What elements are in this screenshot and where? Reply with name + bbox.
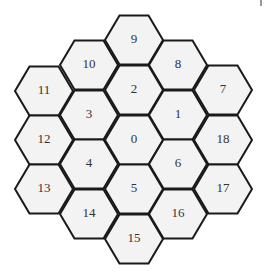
hex-cell-label: 3 [86,106,93,121]
hex-cell-label: 1 [175,106,182,121]
hex-cell-label: 13 [38,180,51,195]
hex-cell-label: 11 [38,82,51,97]
hex-cell-label: 14 [83,205,97,220]
hex-cell-label: 4 [86,155,93,170]
hex-cell-label: 2 [131,81,138,96]
hex-cell-label: 18 [217,131,230,146]
hex-cell-label: 5 [131,180,138,195]
hex-cell-label: 6 [175,155,182,170]
hex-cell-label: 10 [83,56,96,71]
hex-cell-label: 9 [131,31,138,46]
hex-cell-label: 17 [217,180,231,195]
hex-cell-label: 15 [128,230,141,245]
hex-cell-label: 8 [175,56,182,71]
hex-grid-diagram: 9108112731120184613517141615 [0,0,268,278]
hex-cell-label: 12 [38,131,51,146]
hex-cell-label: 7 [220,81,227,96]
hex-cell-label: 16 [172,205,186,220]
hex-cell-label: 0 [131,131,138,146]
